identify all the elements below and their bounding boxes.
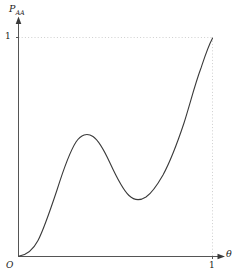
data-curve-paa — [19, 38, 213, 256]
y-axis-label-subscript: AA — [15, 9, 24, 17]
x-axis-arrowhead-icon — [218, 254, 226, 260]
y-axis-label: PAA — [9, 4, 25, 16]
x-axis-label: θ — [226, 249, 232, 259]
chart-figure: PAA θ 1 1 O — [0, 0, 241, 280]
plot-canvas — [0, 0, 241, 280]
x-axis-tick-label-1: 1 — [209, 261, 215, 270]
y-axis-tick-label-1: 1 — [5, 32, 11, 41]
origin-label: O — [6, 261, 13, 270]
y-axis-arrowhead-icon — [16, 17, 22, 25]
